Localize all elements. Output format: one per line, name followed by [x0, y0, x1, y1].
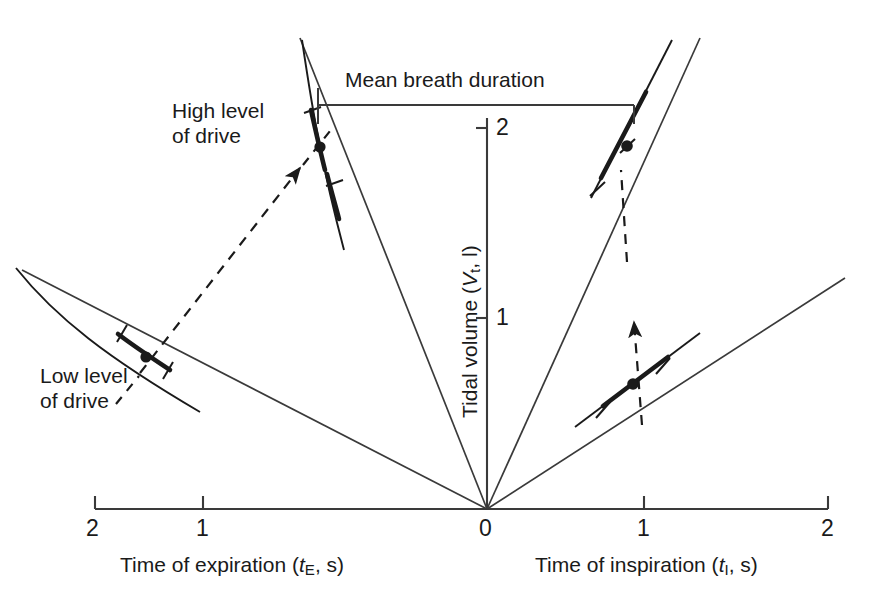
operating-point-low-drive-right [627, 378, 639, 390]
x-axis-left-title-b: , s) [315, 553, 344, 576]
x-axis-right-title-a: Time of inspiration ( [535, 553, 719, 576]
x-tick-label-left-1: 1 [196, 516, 209, 542]
x-tick-label-origin: 0 [479, 516, 492, 542]
high-level-of-drive-line-1: High level [172, 98, 264, 123]
isopleth-left-high-thick-segment-lower [327, 174, 339, 219]
drive-arrow-right-upper-stub [621, 170, 627, 262]
high-level-of-drive-label: High level of drive [172, 98, 264, 148]
x-axis-right-title: Time of inspiration (tI, s) [535, 553, 758, 579]
drive-arrows [140, 168, 642, 425]
flow-rays [22, 38, 845, 509]
figure-panel: 2 1 0 1 2 2 1 Time of expiration (tE, s)… [0, 0, 870, 612]
plot-canvas [0, 0, 870, 612]
y-tick-label-2: 2 [496, 115, 509, 141]
drive-arrow-left [140, 168, 300, 373]
y-axis-title-b: , l) [458, 245, 481, 268]
x-axis-left-title-sub: E [305, 561, 315, 578]
y-tick-label-1: 1 [496, 305, 509, 331]
x-tick-label-right-1: 1 [637, 516, 650, 542]
y-axis-title-var: V [458, 273, 481, 287]
isopleth-left-high-drive [302, 40, 344, 250]
mean-breath-duration-label: Mean breath duration [345, 68, 545, 92]
x-tick-label-right-2: 2 [821, 516, 834, 542]
ray-right-low-drive [487, 278, 845, 509]
low-level-of-drive-line-1: Low level [40, 363, 128, 388]
x-axis [95, 496, 828, 509]
operating-point-low-drive-left [140, 351, 151, 362]
mean-breath-duration-bracket [318, 88, 634, 124]
operating-point-high-drive-right [621, 140, 633, 152]
x-axis-right-title-b: , s) [729, 553, 758, 576]
y-axis-title: Tidal volume (Vt, l) [458, 245, 483, 418]
x-axis-left-title-a: Time of expiration ( [120, 553, 299, 576]
low-level-of-drive-line-2: of drive [40, 388, 128, 413]
ray-right-high-drive [487, 38, 700, 509]
high-level-of-drive-line-2: of drive [172, 123, 264, 148]
low-level-of-drive-label: Low level of drive [40, 363, 128, 413]
isopleth-right-high-drive [590, 40, 672, 198]
x-axis-left-title: Time of expiration (tE, s) [120, 553, 344, 579]
x-tick-label-left-2: 2 [86, 516, 99, 542]
y-axis-title-a: Tidal volume ( [458, 287, 481, 418]
y-axis-title-sub: t [466, 269, 483, 273]
